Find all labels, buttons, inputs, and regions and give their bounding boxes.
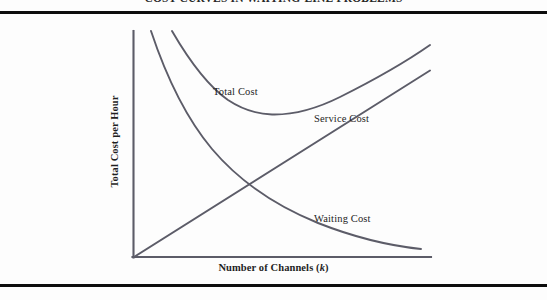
- annotation-waiting-cost: Waiting Cost: [314, 213, 371, 224]
- x-axis-title-paren-close: ): [325, 262, 329, 273]
- figure-container: COST CURVES IN WAITING-LINE PROBLEMS Tot…: [0, 0, 547, 300]
- curve-total-cost: [172, 31, 430, 115]
- figure-title: COST CURVES IN WAITING-LINE PROBLEMS: [0, 0, 547, 5]
- plot-area: [0, 14, 547, 284]
- y-axis-title: Total Cost per Hour: [109, 76, 120, 208]
- curve-waiting-cost: [151, 31, 421, 249]
- annotation-service-cost: Service Cost: [314, 113, 369, 124]
- chart-svg: [0, 14, 547, 284]
- annotation-total-cost: Total Cost: [213, 86, 258, 97]
- bottom-rule: [0, 284, 547, 287]
- x-axis-title-text: Number of Channels: [218, 262, 313, 273]
- x-axis-title: Number of Channels (k): [0, 262, 547, 273]
